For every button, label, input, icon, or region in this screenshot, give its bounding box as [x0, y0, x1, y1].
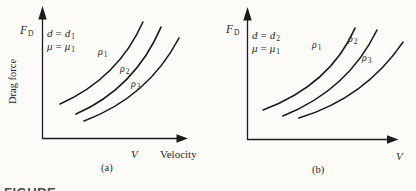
panel-b-label: (b) — [312, 164, 324, 175]
panel-b-y-axis-arrow-icon — [243, 7, 251, 21]
figure-caption-clipped: FIGURE — [4, 185, 56, 191]
panel-b-curve-label-rho2: ρ2 — [348, 33, 358, 46]
panel-a-x-axis-symbol: V — [131, 148, 138, 160]
panel-b-curve-rho2 — [283, 30, 377, 116]
panel-a-y-axis-arrow-icon — [38, 6, 46, 20]
panel-a-curve-label-rho3: ρ3 — [131, 78, 141, 91]
panel-b-x-axis-symbol: V — [396, 150, 403, 162]
panel-b-curve-rho3 — [299, 42, 403, 118]
panel-a-x-axis-title: Velocity — [160, 148, 197, 160]
panel-b-condition-viscosity: μ=μ1 — [252, 42, 280, 58]
panel-b-x-axis-arrow-icon — [387, 135, 399, 143]
panel-a-condition-viscosity: μ=μ1 — [47, 40, 75, 56]
panel-b-curve-label-rho1: ρ1 — [312, 39, 322, 52]
panel-a-x-axis-arrow-icon — [177, 134, 189, 142]
panel-a-label: (a) — [101, 162, 113, 173]
panel-b-y-axis-symbol: FD — [226, 23, 239, 37]
panel-a-curve-label-rho2: ρ2 — [120, 63, 130, 76]
panel-b-curve-label-rho3: ρ3 — [362, 52, 372, 65]
panel-a-y-axis-title: Drag force — [7, 47, 18, 117]
panel-a-curve-label-rho1: ρ1 — [98, 46, 108, 59]
panel-a-curve-rho2 — [76, 27, 161, 114]
panel-a-y-axis-symbol: FD — [20, 24, 33, 38]
figure-drag-force-vs-velocity: FD Drag force d=d1 μ=μ1 ρ1 ρ2 ρ3 V Veloc… — [0, 0, 416, 191]
